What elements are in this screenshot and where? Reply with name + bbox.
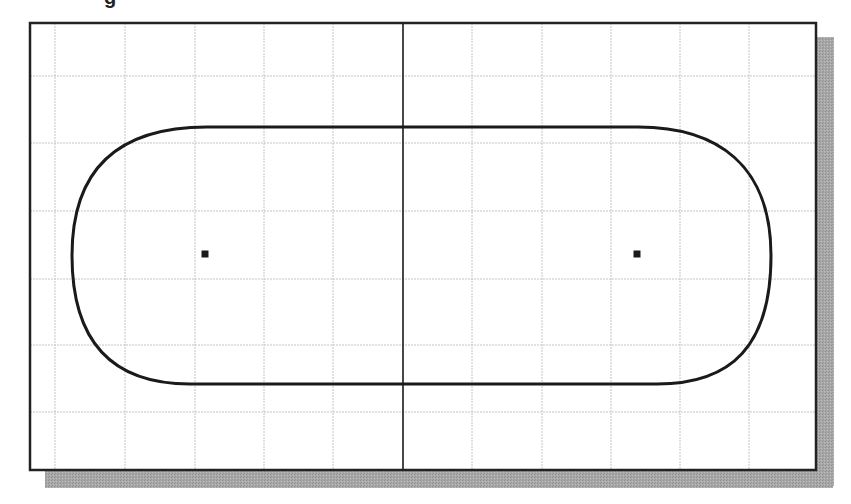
right-center-point[interactable] <box>634 251 641 258</box>
drawing-area <box>30 23 816 470</box>
left-center-point[interactable] <box>202 251 209 258</box>
sketch-canvas[interactable] <box>0 0 851 504</box>
